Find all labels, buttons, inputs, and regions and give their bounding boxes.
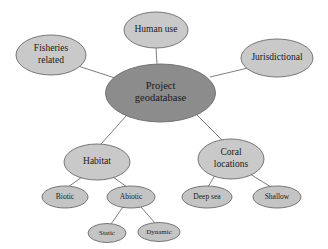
edge-root-to-coral-locations — [196, 114, 222, 140]
edge-habitat-to-biotic — [68, 177, 82, 187]
node-label-biotic: Biotic — [56, 192, 75, 201]
node-label-line: Biotic — [56, 192, 75, 201]
node-label-line: Coral — [220, 147, 241, 157]
node-label-line: Habitat — [83, 156, 111, 166]
edge-root-to-human-use — [156, 48, 157, 64]
node-label-shallow: Shallow — [265, 192, 290, 201]
node-human-use[interactable]: Human use — [124, 12, 188, 48]
node-label-human-use: Human use — [134, 24, 177, 34]
node-dynamic[interactable]: Dynamic — [138, 223, 180, 242]
node-label-habitat: Habitat — [83, 156, 111, 166]
edge-abiotic-to-static — [111, 207, 123, 224]
node-label-line: Static — [99, 229, 115, 237]
geodatabase-concept-diagram: ProjectgeodatabaseHuman useFisheriesrela… — [0, 0, 328, 249]
node-label-line: Human use — [134, 24, 177, 34]
node-biotic[interactable]: Biotic — [42, 186, 88, 208]
node-label-fisheries-related: Fisheriesrelated — [34, 43, 69, 65]
node-static[interactable]: Static — [88, 224, 126, 243]
diagram-canvas: ProjectgeodatabaseHuman useFisheriesrela… — [0, 0, 328, 249]
node-deep-sea[interactable]: Deep sea — [182, 186, 232, 208]
node-label-line: Dynamic — [146, 228, 172, 236]
node-label-line: Project — [146, 80, 176, 91]
edge-abiotic-to-dynamic — [141, 207, 155, 223]
node-root[interactable]: Projectgeodatabase — [106, 64, 216, 122]
node-label-line: Deep sea — [193, 192, 221, 201]
node-shallow[interactable]: Shallow — [253, 186, 301, 208]
node-fisheries-related[interactable]: Fisheriesrelated — [16, 35, 86, 75]
edge-root-to-habitat — [101, 115, 127, 144]
node-label-jurisdictional: Jurisdictional — [251, 52, 303, 62]
node-label-line: Jurisdictional — [251, 52, 303, 62]
node-abiotic[interactable]: Abiotic — [107, 186, 155, 208]
node-label-static: Static — [99, 229, 115, 237]
edge-habitat-to-abiotic — [113, 177, 127, 187]
edge-coral-locations-to-shallow — [250, 174, 271, 187]
node-label-line: geodatabase — [135, 93, 187, 104]
node-habitat[interactable]: Habitat — [64, 144, 130, 180]
node-label-line: locations — [214, 159, 249, 169]
edge-root-to-jurisdictional — [210, 68, 248, 77]
node-jurisdictional[interactable]: Jurisdictional — [241, 39, 313, 77]
node-label-line: Shallow — [265, 192, 290, 201]
node-coral-locations[interactable]: Corallocations — [198, 139, 264, 179]
node-label-deep-sea: Deep sea — [193, 192, 221, 201]
edge-root-to-fisheries-related — [78, 66, 115, 78]
node-label-line: Abiotic — [120, 192, 143, 201]
edge-coral-locations-to-deep-sea — [208, 175, 215, 187]
node-label-dynamic: Dynamic — [146, 228, 172, 236]
node-label-abiotic: Abiotic — [120, 192, 143, 201]
node-label-line: related — [38, 55, 64, 65]
node-label-line: Fisheries — [34, 43, 69, 53]
node-layer: ProjectgeodatabaseHuman useFisheriesrela… — [16, 12, 313, 243]
